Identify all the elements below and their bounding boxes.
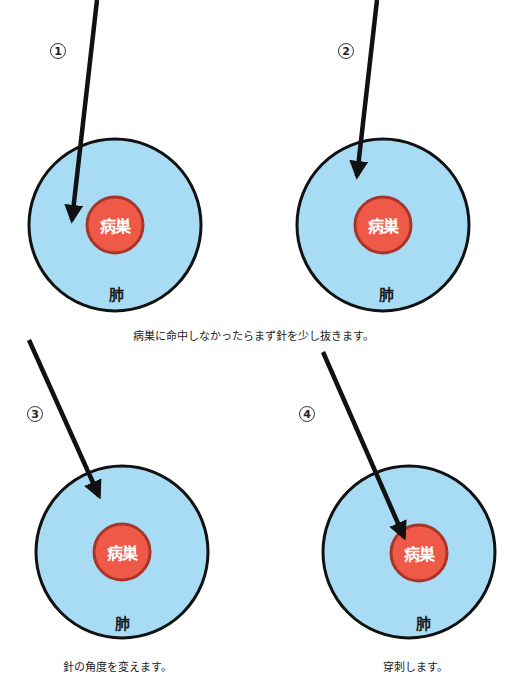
step-number-3: 3 (27, 406, 43, 422)
panel-4 (323, 352, 495, 638)
step-number-2: 2 (338, 43, 354, 59)
lung-label: 肺 (416, 612, 431, 633)
lung-label: 肺 (109, 283, 124, 304)
lesion-label: 病巣 (404, 541, 434, 565)
caption-change-angle: 針の角度を変えます。 (63, 658, 172, 674)
lesion-label: 病巣 (107, 540, 137, 564)
panel-2 (297, 0, 469, 311)
caption-puncture: 穿刺します。 (383, 658, 448, 674)
lung-label: 肺 (115, 612, 130, 633)
panel-3 (29, 340, 208, 638)
caption-withdraw: 病巣に命中しなかったらまず針を少し抜きます。 (133, 327, 374, 343)
biopsy-diagram (0, 0, 519, 687)
lesion-label: 病巣 (100, 213, 130, 237)
lung-label: 肺 (379, 283, 394, 304)
step-number-1: 1 (50, 43, 66, 59)
lesion-label: 病巣 (368, 213, 398, 237)
step-number-4: 4 (299, 406, 315, 422)
